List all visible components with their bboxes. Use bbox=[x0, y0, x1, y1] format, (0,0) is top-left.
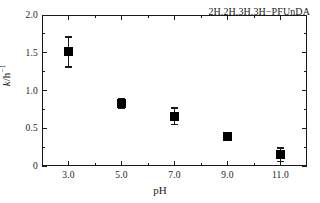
x-axis-tick bbox=[68, 161, 69, 166]
error-bar-cap-upper bbox=[65, 36, 72, 37]
plot-area bbox=[42, 15, 307, 166]
error-bar-cap-upper bbox=[171, 107, 178, 108]
y-axis-minor-tick bbox=[42, 147, 45, 148]
y-axis-unit: /h bbox=[0, 73, 12, 82]
y-axis-tick-label: 0 bbox=[33, 161, 38, 171]
x-axis-minor-tick bbox=[201, 163, 202, 166]
y-axis-tick-label: 2.0 bbox=[26, 10, 38, 20]
y-axis-exponent: −1 bbox=[0, 65, 7, 73]
x-axis-tick-label: 11.0 bbox=[272, 170, 289, 180]
x-axis-tick-label: 3.0 bbox=[62, 170, 74, 180]
y-axis-symbol: k bbox=[0, 81, 12, 86]
figure-canvas: 2H,2H,3H,3H−PFUnDA 00.51.01.52.03.05.07.… bbox=[0, 0, 320, 203]
y-axis-tick-right bbox=[302, 90, 307, 91]
x-axis-tick-top bbox=[280, 15, 281, 20]
data-marker bbox=[117, 99, 126, 108]
y-axis-tick-right bbox=[302, 15, 307, 16]
x-axis-tick-label: 7.0 bbox=[168, 170, 180, 180]
error-bar-cap-upper bbox=[277, 147, 284, 148]
y-axis-tick bbox=[42, 128, 47, 129]
y-axis-tick-right bbox=[302, 128, 307, 129]
y-axis-minor-tick bbox=[42, 33, 45, 34]
data-marker bbox=[223, 132, 232, 141]
y-axis-minor-tick bbox=[42, 109, 45, 110]
x-axis-tick-top bbox=[68, 15, 69, 20]
x-axis-minor-tick-top bbox=[201, 15, 202, 18]
y-axis-title: k/h−1 bbox=[0, 0, 14, 151]
x-axis-tick bbox=[227, 161, 228, 166]
x-axis-tick-label: 9.0 bbox=[221, 170, 233, 180]
x-axis-minor-tick bbox=[254, 163, 255, 166]
x-axis-tick-top bbox=[121, 15, 122, 20]
x-axis-tick bbox=[121, 161, 122, 166]
x-axis-tick-top bbox=[174, 15, 175, 20]
y-axis-minor-tick-right bbox=[304, 33, 307, 34]
x-axis-minor-tick-top bbox=[254, 15, 255, 18]
data-marker bbox=[64, 47, 73, 56]
y-axis-tick bbox=[42, 90, 47, 91]
data-marker bbox=[276, 150, 285, 159]
x-axis-tick bbox=[174, 161, 175, 166]
x-axis-minor-tick bbox=[95, 163, 96, 166]
x-axis-minor-tick-top bbox=[95, 15, 96, 18]
y-axis-tick bbox=[42, 15, 47, 16]
y-axis-minor-tick-right bbox=[304, 71, 307, 72]
data-marker bbox=[170, 112, 179, 121]
error-bar-cap-lower bbox=[65, 66, 72, 67]
y-axis-tick-right bbox=[302, 52, 307, 53]
y-axis-minor-tick-right bbox=[304, 109, 307, 110]
x-axis-minor-tick-top bbox=[148, 15, 149, 18]
y-axis-tick bbox=[42, 52, 47, 53]
y-axis-minor-tick bbox=[42, 71, 45, 72]
y-axis-tick-label: 0.5 bbox=[26, 123, 38, 133]
error-bar-cap-lower bbox=[277, 161, 284, 162]
y-axis-minor-tick-right bbox=[304, 147, 307, 148]
y-axis-tick-label: 1.5 bbox=[26, 48, 38, 58]
y-axis-tick-right bbox=[302, 166, 307, 167]
x-axis-title: pH bbox=[0, 184, 320, 196]
error-bar-cap-lower bbox=[171, 124, 178, 125]
x-axis-tick-label: 5.0 bbox=[115, 170, 127, 180]
y-axis-tick-label: 1.0 bbox=[26, 86, 38, 96]
x-axis-tick-top bbox=[227, 15, 228, 20]
x-axis-minor-tick bbox=[148, 163, 149, 166]
y-axis-tick bbox=[42, 166, 47, 167]
